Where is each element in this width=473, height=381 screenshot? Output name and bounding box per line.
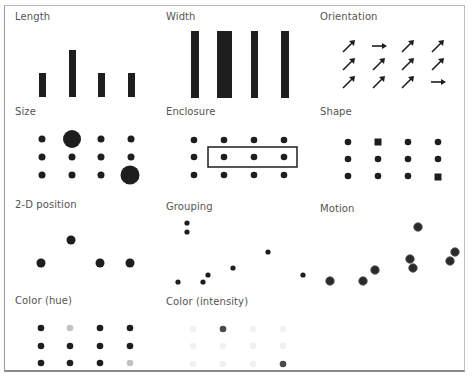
arrow-diagonal-icon bbox=[432, 40, 444, 52]
circle-mark bbox=[375, 173, 382, 180]
width-bar bbox=[191, 31, 199, 98]
motion-dot bbox=[409, 264, 418, 273]
arrow-shaft bbox=[343, 43, 352, 52]
size-dot bbox=[128, 154, 135, 161]
size-dot bbox=[98, 154, 105, 161]
grouping-panel-dots bbox=[175, 220, 305, 284]
grouping-dot bbox=[200, 279, 205, 284]
enclosure-dot bbox=[221, 137, 228, 144]
hue-dot bbox=[127, 343, 134, 350]
position-dot bbox=[37, 259, 46, 268]
hue-dot bbox=[67, 360, 74, 367]
intensity-dot bbox=[280, 326, 287, 333]
size-dot bbox=[63, 130, 81, 148]
hue-dot bbox=[67, 343, 74, 350]
intensity-dot bbox=[280, 343, 287, 350]
size-dot bbox=[39, 136, 46, 143]
motion-dot bbox=[371, 266, 380, 275]
hue-dot bbox=[38, 360, 45, 367]
enclosure-panel-dots bbox=[191, 137, 297, 179]
hue-dot bbox=[127, 325, 134, 332]
size-dot bbox=[128, 136, 135, 143]
enclosure-dot bbox=[191, 154, 198, 161]
size-dot bbox=[69, 154, 76, 161]
arrow-head bbox=[382, 43, 387, 49]
intensity-dot bbox=[220, 361, 227, 368]
circle-mark bbox=[435, 156, 442, 163]
grouping-dot bbox=[300, 272, 305, 277]
arrow-shaft bbox=[402, 43, 411, 52]
orientation-panel-arrows bbox=[343, 40, 446, 88]
length-bar bbox=[39, 73, 46, 97]
width-bar bbox=[217, 31, 232, 98]
circle-mark bbox=[375, 156, 382, 163]
size-dot bbox=[69, 172, 76, 179]
grouping-dot bbox=[230, 265, 235, 270]
arrow-diagonal-icon bbox=[373, 76, 385, 88]
arrow-right-icon bbox=[372, 43, 387, 49]
enclosure-dot bbox=[191, 137, 198, 144]
length-bar bbox=[128, 73, 135, 97]
width-bar bbox=[281, 31, 289, 98]
intensity-dot bbox=[190, 326, 197, 333]
arrow-shaft bbox=[373, 61, 382, 70]
color-hue-panel-dots bbox=[38, 325, 134, 367]
motion-panel-dots bbox=[326, 223, 460, 286]
intensity-dot bbox=[190, 361, 197, 368]
arrow-diagonal-icon bbox=[343, 76, 355, 88]
width-panel-bars bbox=[191, 31, 289, 98]
intensity-dot bbox=[190, 343, 197, 350]
motion-dot bbox=[414, 223, 423, 232]
intensity-dot bbox=[250, 343, 257, 350]
arrow-shaft bbox=[343, 79, 352, 88]
color-intensity-panel-dots bbox=[190, 326, 287, 368]
circle-mark bbox=[435, 139, 442, 146]
arrow-shaft bbox=[343, 61, 352, 70]
width-bar bbox=[251, 31, 258, 98]
square-mark bbox=[375, 139, 382, 146]
circle-mark bbox=[405, 156, 412, 163]
size-panel-dots bbox=[39, 130, 140, 185]
position-dot bbox=[96, 259, 105, 268]
circle-mark bbox=[345, 173, 352, 180]
intensity-dot bbox=[250, 361, 257, 368]
arrow-diagonal-icon bbox=[402, 40, 414, 52]
enclosure-dot bbox=[221, 172, 228, 179]
hue-dot bbox=[38, 343, 45, 350]
enclosure-dot bbox=[191, 172, 198, 179]
hue-dot bbox=[97, 325, 104, 332]
motion-dot bbox=[406, 255, 415, 264]
hue-dot bbox=[97, 360, 104, 367]
shape-panel-marks bbox=[345, 139, 442, 181]
intensity-dot bbox=[250, 326, 257, 333]
position-panel-dots bbox=[37, 236, 135, 268]
arrow-diagonal-icon bbox=[402, 76, 414, 88]
circle-mark bbox=[405, 139, 412, 146]
square-mark bbox=[435, 174, 442, 181]
motion-dot bbox=[446, 257, 455, 266]
arrow-diagonal-icon bbox=[343, 58, 355, 70]
arrow-shaft bbox=[402, 79, 411, 88]
arrow-right-icon bbox=[431, 79, 446, 85]
length-bar bbox=[69, 50, 76, 97]
grouping-dot bbox=[184, 220, 189, 225]
motion-dot bbox=[326, 277, 335, 286]
arrow-head bbox=[441, 79, 446, 85]
position-dot bbox=[67, 236, 76, 245]
arrow-diagonal-icon bbox=[373, 58, 385, 70]
size-dot bbox=[39, 172, 46, 179]
grouping-dot bbox=[175, 279, 180, 284]
length-panel-bars bbox=[39, 50, 135, 97]
intensity-dot bbox=[220, 343, 227, 350]
position-dot bbox=[126, 259, 135, 268]
arrow-shaft bbox=[373, 79, 382, 88]
motion-dot bbox=[451, 248, 460, 257]
circle-mark bbox=[345, 156, 352, 163]
hue-dot bbox=[97, 343, 104, 350]
size-dot bbox=[98, 136, 105, 143]
enclosure-dot bbox=[281, 137, 288, 144]
marks-canvas bbox=[0, 0, 473, 381]
grouping-dot bbox=[184, 229, 189, 234]
motion-dot bbox=[359, 277, 368, 286]
enclosure-dot bbox=[251, 137, 258, 144]
